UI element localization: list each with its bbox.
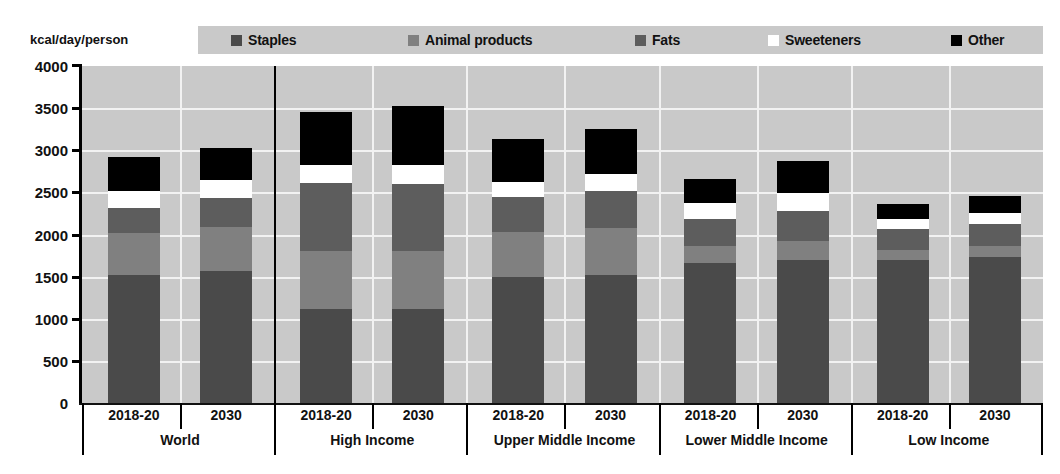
- x-group-label: High Income: [330, 432, 414, 448]
- bar-segment-sweeteners: [300, 165, 352, 184]
- bar-segment-staples: [300, 309, 352, 403]
- bar-segment-other: [392, 106, 444, 164]
- y-tick-mark: [72, 276, 80, 279]
- bar-segment-fats: [777, 211, 829, 241]
- bar-segment-sweeteners: [585, 174, 637, 191]
- bar-segment-other: [300, 112, 352, 165]
- bar-segment-animal-products: [108, 233, 160, 275]
- stacked-bar: [969, 196, 1021, 403]
- x-period-label: 2030: [979, 407, 1010, 423]
- bar-segment-sweeteners: [492, 182, 544, 197]
- bar-segment-other: [777, 161, 829, 193]
- y-tick-label: 3000: [8, 142, 68, 159]
- x-group-label: Lower Middle Income: [685, 432, 827, 448]
- group-gridline: [851, 66, 853, 403]
- stacked-bar: [108, 157, 160, 403]
- x-minor-tick: [564, 403, 566, 429]
- group-separator: [466, 403, 468, 455]
- legend-item-sweeteners: Sweeteners: [768, 32, 861, 48]
- bar-segment-staples: [877, 260, 929, 403]
- gridline: [82, 108, 1043, 110]
- group-separator-major: [274, 66, 276, 404]
- stacked-bar: [684, 179, 736, 403]
- x-minor-tick: [757, 403, 759, 429]
- bar-segment-other: [684, 179, 736, 203]
- bar-segment-staples: [777, 260, 829, 403]
- group-inner-gridline: [949, 66, 951, 403]
- legend-label: Sweeteners: [785, 32, 861, 48]
- legend-item-animal-products: Animal products: [408, 32, 532, 48]
- bar-segment-animal-products: [200, 227, 252, 271]
- y-tick-label: 500: [8, 352, 68, 369]
- legend-swatch-icon: [408, 35, 419, 46]
- x-period-label: 2018-20: [108, 407, 159, 423]
- group-separator: [851, 403, 853, 455]
- bar-segment-sweeteners: [777, 193, 829, 211]
- bar-segment-sweeteners: [108, 191, 160, 209]
- bar-segment-sweeteners: [200, 180, 252, 199]
- x-period-label: 2030: [403, 407, 434, 423]
- group-separator: [659, 403, 661, 455]
- stacked-bar: [492, 139, 544, 403]
- y-axis-labels: 05001000150020002500300035004000: [4, 0, 68, 474]
- legend-swatch-icon: [951, 35, 962, 46]
- group-gridline: [659, 66, 661, 403]
- bar-segment-staples: [392, 309, 444, 403]
- bar-segment-fats: [969, 224, 1021, 247]
- stacked-bar: [585, 129, 637, 403]
- bar-segment-animal-products: [969, 246, 1021, 257]
- x-period-label: 2018-20: [685, 407, 736, 423]
- bar-segment-fats: [684, 219, 736, 246]
- legend-swatch-icon: [231, 35, 242, 46]
- x-period-label: 2030: [787, 407, 818, 423]
- x-minor-tick: [372, 403, 374, 429]
- bar-segment-staples: [200, 271, 252, 403]
- bar-segment-staples: [684, 263, 736, 403]
- bar-segment-staples: [108, 275, 160, 403]
- bar-segment-sweeteners: [969, 213, 1021, 224]
- bar-segment-animal-products: [492, 232, 544, 277]
- x-period-label: 2018-20: [493, 407, 544, 423]
- legend-swatch-icon: [768, 35, 779, 46]
- group-gridline: [466, 66, 468, 403]
- x-minor-tick: [949, 403, 951, 429]
- x-group-label: Low Income: [908, 432, 989, 448]
- x-minor-tick: [180, 403, 182, 429]
- bar-segment-other: [200, 148, 252, 180]
- y-tick-label: 1000: [8, 310, 68, 327]
- x-period-label: 2018-20: [877, 407, 928, 423]
- stacked-bar: [392, 106, 444, 403]
- y-tick-label: 2000: [8, 226, 68, 243]
- legend-item-other: Other: [951, 32, 1004, 48]
- bar-segment-other: [492, 139, 544, 182]
- x-group-label: World: [160, 432, 199, 448]
- stacked-bar: [877, 204, 929, 403]
- bar-segment-animal-products: [777, 241, 829, 260]
- legend-swatch-icon: [635, 35, 646, 46]
- y-tick-label: 2500: [8, 184, 68, 201]
- axis-end-separator: [82, 403, 84, 455]
- bar-segment-fats: [877, 229, 929, 249]
- bar-segment-fats: [300, 183, 352, 250]
- bar-segment-other: [585, 129, 637, 174]
- bar-segment-other: [877, 204, 929, 219]
- chart-legend: StaplesAnimal productsFatsSweetenersOthe…: [198, 26, 1043, 54]
- y-tick-mark: [72, 234, 80, 237]
- bar-segment-fats: [585, 191, 637, 228]
- legend-label: Animal products: [425, 32, 532, 48]
- bar-segment-animal-products: [392, 251, 444, 309]
- y-tick-label: 4000: [8, 58, 68, 75]
- x-period-label: 2030: [595, 407, 626, 423]
- legend-label: Other: [968, 32, 1004, 48]
- group-inner-gridline: [757, 66, 759, 403]
- stacked-bar: [777, 161, 829, 403]
- bar-segment-staples: [969, 257, 1021, 403]
- bar-segment-fats: [492, 197, 544, 232]
- stacked-bar: [300, 112, 352, 403]
- y-tick-label: 0: [8, 395, 68, 412]
- chart-root: kcal/day/person StaplesAnimal productsFa…: [0, 0, 1060, 474]
- group-separator: [274, 403, 276, 455]
- bar-segment-sweeteners: [877, 219, 929, 229]
- y-tick-mark: [72, 107, 80, 110]
- stacked-bar: [200, 148, 252, 403]
